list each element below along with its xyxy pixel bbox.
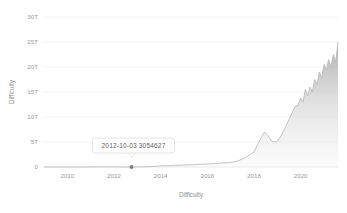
y-tick-label: 25T <box>27 38 38 45</box>
tooltip[interactable]: 2012-10-03 3054627 <box>93 138 175 169</box>
difficulty-chart: 05T10T15T20T25T30T 201020122014201620182… <box>0 0 347 213</box>
x-tick-label: 2018 <box>247 172 261 179</box>
x-tick-label: 2016 <box>200 172 214 179</box>
x-tick-label: 2020 <box>294 172 308 179</box>
x-tick-label: 2010 <box>60 172 74 179</box>
data-point-marker[interactable] <box>130 165 134 169</box>
x-axis-title: Difficulty <box>179 191 204 199</box>
y-axis-title: Difficulty <box>8 79 16 104</box>
x-tick-label: 2014 <box>154 172 168 179</box>
y-tick-label: 30T <box>27 13 38 20</box>
y-tick-label: 5T <box>31 138 38 145</box>
chart-canvas: 05T10T15T20T25T30T 201020122014201620182… <box>0 0 347 213</box>
y-tick-label: 10T <box>27 113 38 120</box>
y-tick-label: 0 <box>35 163 39 170</box>
x-axis-tick-labels: 201020122014201620182020 <box>60 172 308 179</box>
tooltip-label: 2012-10-03 3054627 <box>102 142 166 149</box>
y-axis-tick-labels: 05T10T15T20T25T30T <box>27 13 38 170</box>
y-tick-label: 15T <box>27 88 38 95</box>
tooltip-pointer <box>128 153 135 158</box>
difficulty-area <box>44 42 338 167</box>
x-tick-label: 2012 <box>107 172 121 179</box>
y-tick-label: 20T <box>27 63 38 70</box>
